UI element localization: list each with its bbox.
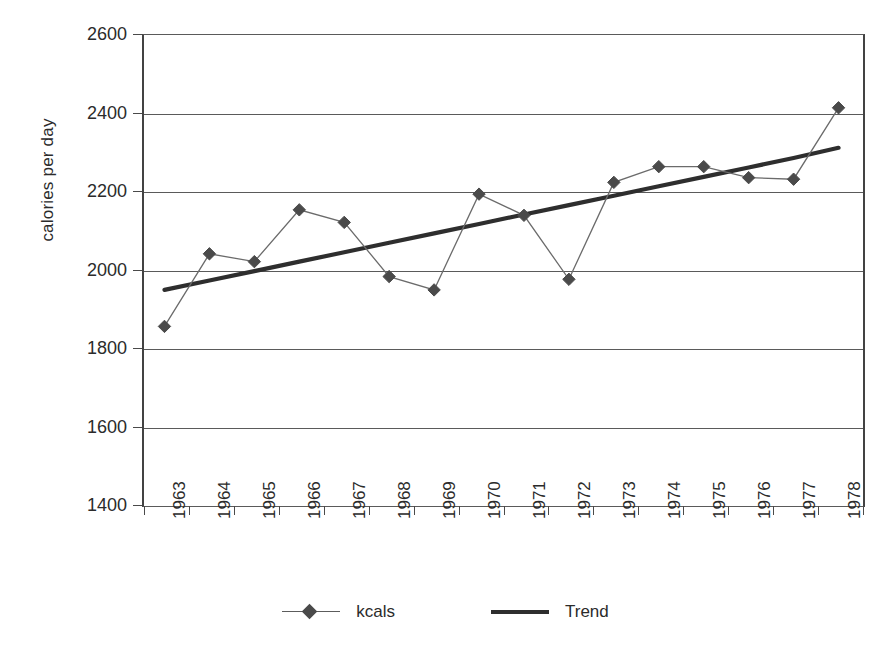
plot-area (142, 34, 865, 507)
legend-marker-kcals-icon (282, 605, 340, 619)
x-axis-tick-label: 1969 (441, 481, 458, 519)
x-axis-tick-label: 1968 (396, 481, 413, 519)
x-axis-tick-label: 1975 (711, 481, 728, 519)
y-axis-tick-label: 1800 (57, 339, 127, 357)
legend-entry-kcals: kcals (282, 602, 395, 622)
x-axis-tick-mark (234, 506, 235, 515)
y-axis-tick-mark (133, 191, 142, 192)
x-axis-tick-label: 1970 (486, 481, 503, 519)
gridline (144, 349, 863, 350)
x-axis-tick-label: 1978 (846, 481, 863, 519)
x-axis-tick-mark (144, 506, 145, 515)
x-axis-tick-label: 1971 (531, 481, 548, 519)
y-axis-tick-label: 2400 (57, 104, 127, 122)
x-axis-tick-label: 1976 (756, 481, 773, 519)
y-axis-tick-label: 1600 (57, 418, 127, 436)
chart-legend: kcals Trend (0, 602, 891, 622)
y-axis-tick-mark (133, 270, 142, 271)
x-axis-tick-label: 1963 (171, 481, 188, 519)
x-axis-tick-label: 1977 (801, 481, 818, 519)
y-axis-tick-mark (133, 113, 142, 114)
y-axis-tick-label: 1400 (57, 496, 127, 514)
y-axis-tick-mark (133, 505, 142, 506)
gridline (144, 271, 863, 272)
y-axis-title: calories per day (38, 70, 58, 290)
legend-label-kcals: kcals (356, 602, 395, 622)
x-axis-tick-mark (189, 506, 190, 515)
y-axis-tick-mark (133, 34, 142, 35)
y-axis-tick-mark (133, 348, 142, 349)
x-axis-tick-label: 1974 (666, 481, 683, 519)
x-axis-tick-label: 1965 (261, 481, 278, 519)
gridline (144, 192, 863, 193)
x-axis-tick-label: 1966 (306, 481, 323, 519)
y-axis-tick-mark (133, 427, 142, 428)
x-axis-tick-label: 1972 (576, 481, 593, 519)
legend-marker-trend-icon (491, 605, 549, 619)
x-axis-tick-label: 1967 (351, 481, 368, 519)
x-axis-tick-label: 1973 (621, 481, 638, 519)
line-chart: calories per day 14001600180020002200240… (0, 0, 891, 646)
legend-entry-trend: Trend (491, 602, 609, 622)
y-axis-tick-label: 2000 (57, 261, 127, 279)
legend-label-trend: Trend (565, 602, 609, 622)
gridline (144, 114, 863, 115)
gridline (144, 428, 863, 429)
y-axis-tick-label: 2600 (57, 25, 127, 43)
x-axis-tick-label: 1964 (216, 481, 233, 519)
y-axis-tick-label: 2200 (57, 182, 127, 200)
